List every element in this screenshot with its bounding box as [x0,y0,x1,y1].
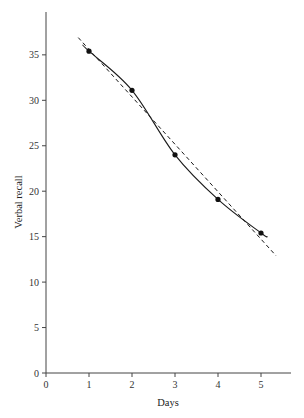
y-axis-label: Verbal recall [13,175,24,228]
x-tick-label: 2 [130,379,135,390]
y-tick-label: 10 [29,277,39,288]
x-tick-label: 5 [259,379,264,390]
y-tick-label: 20 [29,186,39,197]
x-axis-label: Days [157,397,179,408]
axes: 05101520253035 012345 [29,12,291,390]
fit-line-dashed [78,38,276,256]
x-ticks: 012345 [44,373,264,390]
y-tick-label: 30 [29,95,39,106]
x-tick-label: 4 [216,379,221,390]
data-point-marker [215,197,220,202]
data-point-marker [172,152,177,157]
y-tick-label: 15 [29,231,39,242]
x-tick-label: 1 [87,379,92,390]
data-point-marker [129,88,134,93]
y-tick-label: 5 [34,322,39,333]
observed-curve [83,45,268,237]
y-tick-label: 0 [34,368,39,379]
y-tick-label: 35 [29,49,39,60]
y-tick-label: 25 [29,140,39,151]
chart-canvas: 05101520253035 012345 Days Verbal recall [0,0,304,418]
plot-series [78,38,276,256]
x-tick-label: 3 [173,379,178,390]
data-point-marker [86,49,91,54]
x-tick-label: 0 [44,379,49,390]
data-point-marker [258,230,263,235]
y-ticks: 05101520253035 [29,49,46,378]
